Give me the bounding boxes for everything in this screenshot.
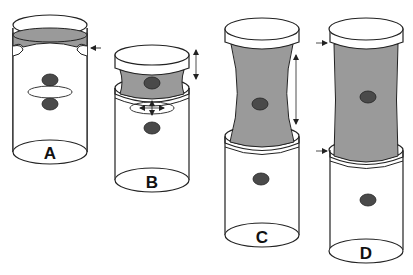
panel-label: A: [44, 144, 56, 163]
panel-b: B: [115, 45, 196, 192]
panel-c: C: [225, 18, 299, 247]
cylinder-diagram: A B: [0, 0, 413, 275]
panel-a: A: [13, 15, 101, 164]
dot: [360, 194, 376, 206]
dot: [42, 74, 58, 86]
panel-label: D: [360, 244, 372, 263]
panel-d: D: [316, 18, 403, 263]
panel-label: C: [256, 228, 268, 247]
dot: [360, 91, 376, 103]
dot: [42, 98, 58, 110]
panel-label: B: [146, 173, 158, 192]
dot: [144, 77, 160, 89]
dot: [144, 122, 160, 134]
dot: [253, 173, 269, 185]
dot: [252, 98, 268, 110]
